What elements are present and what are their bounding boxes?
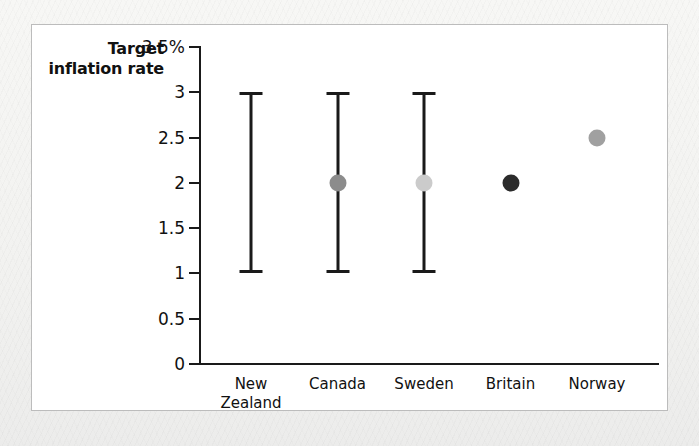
- range-cap-upper: [413, 92, 436, 95]
- y-axis-tick-label: 3: [174, 82, 185, 102]
- y-axis-tick-label: 3.5%: [142, 37, 185, 57]
- y-axis-tick: [189, 227, 200, 229]
- x-axis-tick-label: Canada: [309, 375, 366, 394]
- y-axis-tick: [189, 46, 200, 48]
- y-axis-tick-label: 0.5: [158, 309, 185, 329]
- range-cap-upper: [240, 92, 263, 95]
- data-point-dot: [589, 129, 606, 146]
- y-axis-tick-label: 1.5: [158, 218, 185, 238]
- y-axis-tick: [189, 318, 200, 320]
- range-cap-lower: [240, 270, 263, 273]
- x-axis-tick-label: Britain: [486, 375, 535, 394]
- data-point-dot: [502, 174, 519, 191]
- y-axis-tick-label: 0: [174, 354, 185, 374]
- x-axis-line: [199, 363, 659, 365]
- y-axis-tick: [189, 272, 200, 274]
- y-axis-tick-label: 2: [174, 173, 185, 193]
- range-cap-lower: [326, 270, 349, 273]
- x-axis-tick-label: New Zealand: [220, 375, 281, 413]
- y-axis-tick: [189, 137, 200, 139]
- y-axis-tick-label: 2.5: [158, 128, 185, 148]
- y-axis-tick: [189, 182, 200, 184]
- data-point-dot: [329, 174, 346, 191]
- range-bar: [250, 92, 253, 273]
- chart-panel: Target inflation rate 00.511.522.533.5% …: [31, 24, 668, 411]
- data-point-dot: [416, 174, 433, 191]
- y-axis-tick: [189, 91, 200, 93]
- y-axis-tick-label: 1: [174, 263, 185, 283]
- x-axis-tick-label: Sweden: [394, 375, 453, 394]
- x-axis-tick-label: Norway: [569, 375, 626, 394]
- y-axis-tick: [189, 363, 200, 365]
- range-cap-lower: [413, 270, 436, 273]
- range-cap-upper: [326, 92, 349, 95]
- plot-area: 00.511.522.533.5% New ZealandCanadaSwede…: [32, 25, 669, 412]
